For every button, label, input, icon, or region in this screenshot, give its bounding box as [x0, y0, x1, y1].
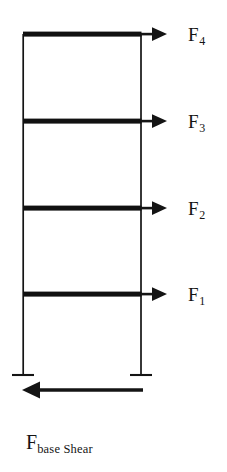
- force-label-f4: F4: [188, 25, 205, 44]
- force-arrow-f2: [141, 201, 167, 215]
- beam-level-4: [23, 32, 142, 37]
- force-arrow-f1-head: [152, 287, 167, 301]
- force-arrow-f3-head: [152, 114, 167, 128]
- force-label-f2-sub: 2: [199, 208, 205, 222]
- base-shear-label-sub: base Shear: [37, 442, 93, 456]
- base-shear-label-base: F: [26, 431, 37, 453]
- force-label-f2-base: F: [188, 198, 199, 219]
- beam-level-3: [23, 119, 142, 124]
- force-label-f4-sub: 4: [199, 34, 205, 48]
- force-label-f3-sub: 3: [199, 121, 205, 135]
- force-label-f2: F2: [188, 199, 205, 218]
- force-label-f3: F3: [188, 112, 205, 131]
- base-shear-label: Fbase Shear: [26, 432, 93, 452]
- force-label-f3-base: F: [188, 111, 199, 132]
- story-force-arrows: [141, 27, 167, 301]
- frame-diagram-svg: [0, 0, 227, 472]
- force-label-f1-base: F: [188, 284, 199, 305]
- force-label-f1: F1: [188, 285, 205, 304]
- frame-beams: [23, 32, 142, 297]
- force-label-f4-base: F: [188, 24, 199, 45]
- frame-columns: [23, 34, 141, 375]
- force-arrow-f4-head: [152, 27, 167, 41]
- force-arrow-f2-head: [152, 201, 167, 215]
- beam-level-1: [23, 292, 142, 297]
- frame-force-diagram: F4 F3 F2 F1 Fbase Shear: [0, 0, 227, 472]
- force-label-f1-sub: 1: [199, 294, 205, 308]
- force-arrow-f1: [141, 287, 167, 301]
- force-arrow-f3: [141, 114, 167, 128]
- force-arrow-f4: [141, 27, 167, 41]
- base-shear-arrow: [22, 382, 143, 399]
- base-shear-arrow-head: [22, 382, 40, 399]
- beam-level-2: [23, 206, 142, 211]
